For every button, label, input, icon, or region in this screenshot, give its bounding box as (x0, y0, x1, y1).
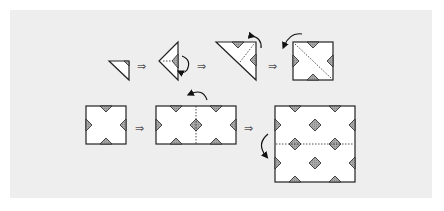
step-6-rectangle (156, 92, 236, 144)
step-3-large-triangle (216, 36, 261, 80)
arrow-4-icon: ⇒ (135, 122, 144, 135)
arrow-3-icon: ⇒ (268, 60, 277, 73)
arrow-5-icon: ⇒ (244, 122, 253, 135)
curved-arrow-icon (180, 56, 189, 73)
step-5-square (86, 106, 126, 144)
curved-arrow-icon (261, 134, 268, 156)
arrow-1-icon: ⇒ (137, 60, 146, 73)
curved-arrow-icon (190, 92, 207, 100)
step-1-small-triangle (109, 61, 129, 80)
step-2-left-triangle (159, 42, 189, 80)
fold-diagram: ⇒ ⇒ ⇒ ⇒ (0, 0, 444, 211)
arrow-2-icon: ⇒ (197, 60, 206, 73)
step-7-large-square (261, 106, 355, 182)
step-4-square (284, 34, 333, 80)
